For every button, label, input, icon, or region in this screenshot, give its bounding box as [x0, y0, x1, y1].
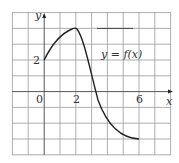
curve-label: y = f(x): [100, 48, 142, 61]
y-axis-label: y: [34, 9, 42, 22]
x-tick-6: 6: [136, 93, 143, 106]
origin-label: 0: [36, 93, 43, 106]
y-axis-arrow-icon: [42, 13, 46, 18]
x-tick-2: 2: [73, 93, 80, 106]
y-tick-2: 2: [33, 54, 40, 67]
graph-of-f: y x 0 2 6 2 y = f(x): [0, 0, 179, 163]
x-axis-label: x: [166, 95, 173, 108]
grid: [12, 12, 171, 155]
